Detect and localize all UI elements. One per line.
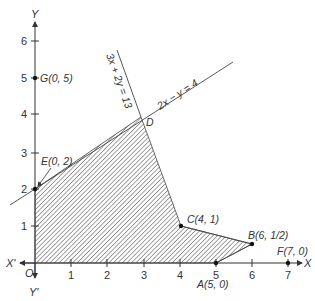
point-c bbox=[179, 224, 183, 228]
y-neg-axis-label: Y' bbox=[29, 286, 39, 298]
feasible-region-diagram: 1 2 3 4 5 6 7 1 2 3 4 5 6 X X' Y Y' O A(… bbox=[0, 0, 315, 301]
x-tick-3: 3 bbox=[141, 269, 147, 281]
label-point-a: A(5, 0) bbox=[196, 278, 229, 290]
point-g bbox=[33, 76, 37, 80]
x-tick-1: 1 bbox=[68, 269, 74, 281]
label-point-d: D bbox=[146, 116, 154, 128]
x-neg-axis-label: X' bbox=[5, 257, 16, 269]
x-tick-7: 7 bbox=[285, 269, 291, 281]
x-axis-label: X bbox=[303, 257, 312, 269]
origin-label: O bbox=[25, 267, 34, 279]
point-f bbox=[286, 261, 290, 265]
y-tick-2: 2 bbox=[21, 183, 27, 195]
label-3x-2y-13: 3x + 2y = 13 bbox=[104, 52, 135, 111]
y-axis-label: Y bbox=[31, 8, 39, 20]
point-e bbox=[33, 187, 37, 191]
feasible-region bbox=[35, 117, 252, 263]
x-tick-2: 2 bbox=[104, 269, 110, 281]
x-tick-labels: 1 2 3 4 5 6 7 bbox=[68, 269, 291, 281]
y-tick-4: 4 bbox=[21, 108, 27, 120]
label-point-e: E(0, 2) bbox=[41, 155, 73, 167]
label-point-b: B(6, 1/2) bbox=[248, 229, 288, 241]
y-tick-3: 3 bbox=[21, 147, 27, 159]
x-tick-4: 4 bbox=[177, 269, 183, 281]
y-tick-6: 6 bbox=[21, 35, 27, 47]
point-a bbox=[214, 261, 218, 265]
y-tick-5: 5 bbox=[21, 72, 27, 84]
label-2x-y-4: 2x − y = 4 bbox=[154, 76, 200, 112]
y-tick-1: 1 bbox=[21, 220, 27, 232]
y-tick-labels: 1 2 3 4 5 6 bbox=[21, 35, 27, 232]
point-b bbox=[250, 242, 254, 246]
x-tick-6: 6 bbox=[249, 269, 255, 281]
label-point-g: G(0, 5) bbox=[40, 72, 73, 84]
label-point-c: C(4, 1) bbox=[187, 213, 219, 225]
label-point-f: F(7, 0) bbox=[277, 245, 308, 257]
